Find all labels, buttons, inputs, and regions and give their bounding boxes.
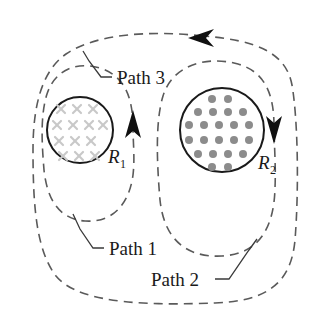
- region-r2-circle: [180, 88, 264, 172]
- path3-label: Path 3: [117, 67, 165, 88]
- region-r1-label-subscript: 1: [120, 157, 126, 171]
- region-r2-label-subscript: 2: [270, 163, 276, 177]
- region-r2-label: R: [257, 152, 270, 173]
- path3-callout: Path 3: [83, 51, 165, 88]
- path3-leader-line: [83, 51, 112, 77]
- path1-leader-line: [73, 214, 104, 248]
- region-r2-group: R 2: [180, 88, 276, 177]
- path1-direction-arrow: [125, 110, 141, 138]
- path2-label: Path 2: [151, 269, 199, 290]
- figure-container: R 1: [0, 0, 319, 316]
- region-r1-group: R 1: [47, 97, 126, 171]
- region-r1-label: R: [107, 146, 120, 167]
- path2-leader-line: [215, 239, 257, 279]
- path1-label: Path 1: [109, 238, 157, 259]
- physics-diagram: R 1: [0, 0, 319, 316]
- path2-callout: Path 2: [151, 239, 257, 290]
- path3-direction-arrow: [188, 29, 214, 47]
